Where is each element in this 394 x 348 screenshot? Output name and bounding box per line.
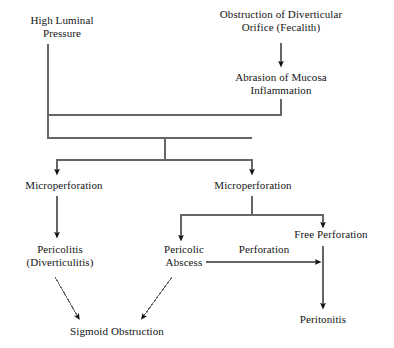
flowchart-diagram: High Luminal Pressure Obstruction of Div… <box>0 0 394 348</box>
connector-split-to-microperforation-right <box>165 160 252 172</box>
edge-label-perforation: Perforation <box>228 243 300 256</box>
node-peritonitis: Peritonitis <box>292 313 354 326</box>
node-microperforation-left: Microperforation <box>14 179 114 192</box>
flowchart-connectors <box>0 0 394 348</box>
node-obstruction-diverticular-orifice: Obstruction of Diverticular Orifice (Fec… <box>207 8 355 34</box>
connector-to-pericolic-abscess <box>181 215 252 238</box>
connector-pericolic-abscess-to-sigmoid-obstruction <box>143 277 172 317</box>
node-abrasion-mucosa-inflammation: Abrasion of Mucosa Inflammation <box>219 71 343 97</box>
connector-pericolitis-to-sigmoid-obstruction <box>55 277 78 317</box>
node-pericolic-abscess: Pericolic Abscess <box>150 243 218 269</box>
node-microperforation-right: Microperforation <box>203 179 303 192</box>
connector-to-free-perforation <box>252 215 323 225</box>
node-free-perforation: Free Perforation <box>281 228 381 241</box>
connector-split-to-microperforation-left <box>57 160 165 172</box>
node-sigmoid-obstruction: Sigmoid Obstruction <box>54 325 180 338</box>
node-high-luminal-pressure: High Luminal Pressure <box>16 14 108 40</box>
node-pericolitis-diverticulitis: Pericolitis (Diverticulitis) <box>11 243 109 269</box>
connector-abrasion-elbow <box>48 99 281 115</box>
